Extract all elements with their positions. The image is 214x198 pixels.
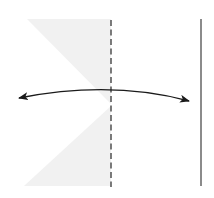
fold-diagram	[0, 0, 214, 198]
lower-flap-shading	[24, 106, 111, 186]
